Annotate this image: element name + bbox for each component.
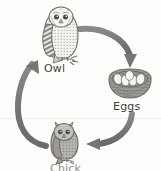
stage-label-chick: Chick <box>50 162 81 171</box>
nest-with-eggs-illustration <box>106 68 154 100</box>
arrow-chick-to-owl <box>18 60 46 146</box>
owl-illustration <box>33 5 89 65</box>
stage-label-owl: Owl <box>44 62 65 75</box>
stage-label-eggs: Eggs <box>113 100 140 113</box>
owl-chick-illustration <box>44 120 88 168</box>
arrow-eggs-to-chick <box>86 114 132 150</box>
owl-life-cycle-diagram: Owl Eggs Chick <box>0 0 161 171</box>
